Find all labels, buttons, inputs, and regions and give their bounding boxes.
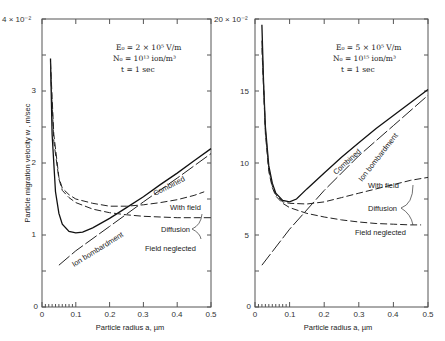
right-annotation-e0: E₀ = 5 × 10⁵ V/m [336, 43, 401, 52]
left-annotation-e0: E₀ = 2 × 10⁵ V/m [116, 43, 181, 52]
right-label-with-field: With field [368, 181, 399, 190]
right-annotation-t: t = 1 sec [341, 65, 375, 74]
right-xtick-4: 0.4 [387, 310, 399, 319]
left-diffusion-arrow-down [192, 229, 201, 239]
left-xtick-3: 0.3 [137, 310, 149, 319]
right-label-field-neglected: Field neglected [355, 228, 406, 237]
left-ytick-1: 1 [32, 230, 37, 239]
right-ytick-10: 10 [240, 159, 249, 168]
left-y-axis-label: Particle migration velocity w , m/sec [23, 103, 32, 222]
left-label-field-neglected: Field neglected [145, 244, 196, 253]
left-label-diffusion: Diffusion [161, 225, 190, 234]
figure: 4 × 10⁻² 3 2 1 0 0 0.1 0.2 0.3 0.4 0.5 P… [0, 0, 445, 341]
right-xtick-5: 0.5 [422, 310, 434, 319]
left-annotation-t: t = 1 sec [121, 65, 155, 74]
left-x-axis-label: Particle radius a, µm [96, 323, 165, 332]
right-ytick-0: 0 [247, 302, 252, 311]
right-y-multiplier: 20 × 10⁻² [214, 15, 248, 24]
right-ytick-5: 5 [245, 231, 250, 240]
left-diffusion-arrow-up [192, 214, 202, 229]
right-diffusion-arrow-down [401, 208, 413, 225]
left-ytick-0: 0 [34, 302, 39, 311]
left-chart: 4 × 10⁻² 3 2 1 0 0 0.1 0.2 0.3 0.4 0.5 P… [2, 15, 217, 332]
right-label-diffusion: Diffusion [368, 204, 397, 213]
left-xtick-5: 0.5 [205, 310, 217, 319]
left-y-multiplier: 4 × 10⁻² [2, 15, 31, 24]
diffusion-field-neglected-curve [51, 69, 212, 217]
left-annotation-n0: N₀ = 10¹³ ion/m³ [113, 54, 176, 63]
right-xtick-1: 0.1 [284, 310, 296, 319]
ion-bombardment-curve [262, 95, 428, 265]
right-x-axis-label: Particle radius a, µm [304, 323, 373, 332]
left-xtick-2: 0.2 [104, 310, 116, 319]
left-label-combined: Combined [152, 174, 187, 198]
right-ytick-15: 15 [240, 87, 249, 96]
right-xtick-2: 0.2 [318, 310, 330, 319]
right-chart: 20 × 10⁻² 15 10 5 0 0 0.1 0.2 0.3 0.4 0.… [214, 15, 434, 332]
right-xtick-0: 0 [253, 310, 258, 319]
right-annotation-n0: N₀ = 10¹⁵ ion/m³ [333, 54, 396, 63]
left-ytick-2: 2 [32, 158, 37, 167]
left-xtick-0: 0 [40, 310, 45, 319]
right-xtick-3: 0.3 [353, 310, 365, 319]
right-diffusion-arrow-up [401, 185, 413, 208]
left-label-with-field: With field [170, 203, 201, 212]
left-curves [51, 59, 212, 266]
left-ytick-3: 3 [32, 86, 37, 95]
left-xtick-4: 0.4 [171, 310, 183, 319]
left-xtick-1: 0.1 [70, 310, 82, 319]
